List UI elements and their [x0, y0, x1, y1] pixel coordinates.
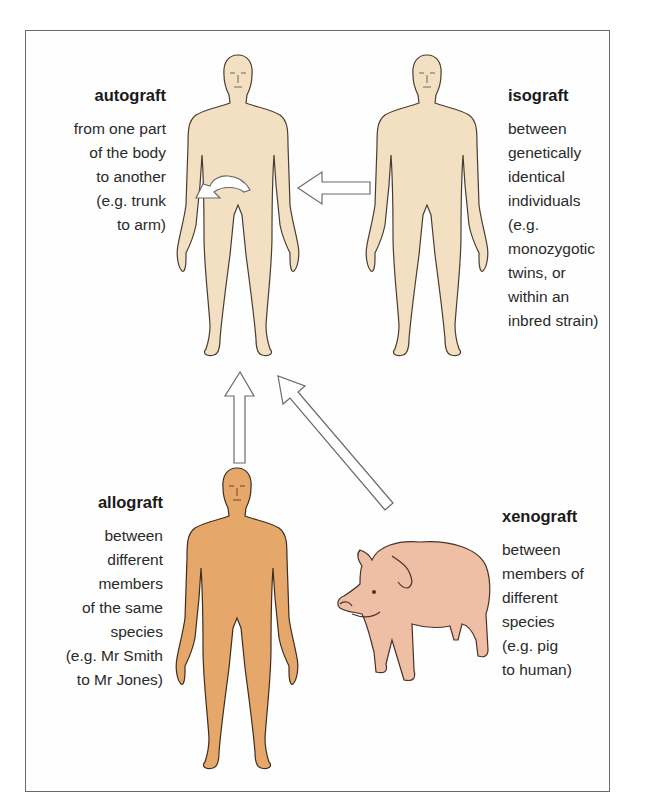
isograft-label: isograft between genetically identical i…: [508, 83, 628, 333]
autograft-human-figure: [177, 55, 299, 356]
allograft-label: allograft between different members of t…: [3, 490, 163, 692]
allograft-to-autograft-arrow-icon: [225, 372, 254, 463]
allograft-human-figure: [176, 468, 298, 769]
xenograft-to-autograft-arrow-icon: [278, 376, 393, 510]
xenograft-pig-figure: [338, 542, 490, 681]
xenograft-description: between members of different species (e.…: [502, 538, 622, 682]
isograft-to-autograft-arrow-icon: [298, 172, 370, 204]
autograft-title: autograft: [6, 83, 166, 107]
isograft-title: isograft: [508, 83, 628, 107]
autograft-description: from one part of the body to another (e.…: [6, 117, 166, 237]
allograft-description: between different members of the same sp…: [3, 524, 163, 692]
isograft-description: between genetically identical individual…: [508, 117, 628, 333]
autograft-label: autograft from one part of the body to a…: [6, 83, 166, 237]
isograft-human-figure: [366, 55, 488, 356]
allograft-title: allograft: [3, 490, 163, 514]
xenograft-title: xenograft: [502, 504, 622, 528]
xenograft-label: xenograft between members of different s…: [502, 504, 622, 682]
